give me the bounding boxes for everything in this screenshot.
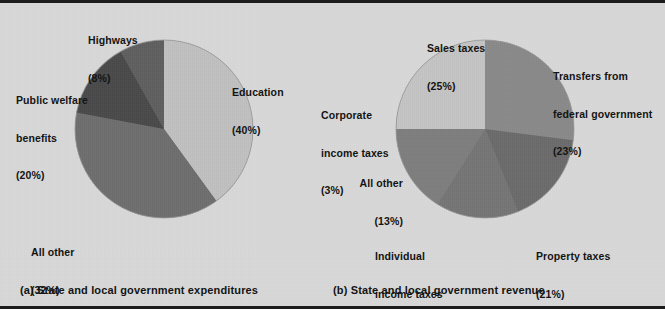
label-highways-percent: (8%) xyxy=(88,72,138,85)
label-all-other-revenue-name: All other xyxy=(325,177,403,190)
label-transfers-percent: (23%) xyxy=(553,145,652,158)
label-highways: Highways (8%) xyxy=(88,9,138,109)
label-education-name: Education xyxy=(232,86,284,99)
caption-panel-a: (a) State and local government expenditu… xyxy=(20,284,258,296)
panel-state-local-revenue: Sales taxes (25%) Transfers from federal… xyxy=(333,3,665,309)
label-public-welfare-percent: (20%) xyxy=(16,169,88,182)
label-individual-name-1: Individual xyxy=(375,250,443,263)
label-sales-taxes: Sales taxes (25%) xyxy=(427,17,485,117)
label-property-taxes: Property taxes (21%) xyxy=(536,225,610,309)
label-property-taxes-name: Property taxes xyxy=(536,250,610,263)
label-transfers-name-1: Transfers from xyxy=(553,70,652,83)
figure-container: Highways (8%) Education (40%) Public wel… xyxy=(0,0,665,309)
label-corporate-name-1: Corporate xyxy=(321,109,389,122)
label-sales-taxes-percent: (25%) xyxy=(427,80,485,93)
label-all-other-name: All other xyxy=(31,246,75,259)
label-transfers-federal-government: Transfers from federal government (23%) xyxy=(553,45,652,183)
label-highways-name: Highways xyxy=(88,34,138,47)
label-public-welfare-benefits: Public welfare benefits (20%) xyxy=(16,69,88,207)
caption-panel-b: (b) State and local government revenue xyxy=(333,284,545,296)
label-transfers-name-2: federal government xyxy=(553,108,652,121)
label-education-percent: (40%) xyxy=(232,124,284,137)
label-education: Education (40%) xyxy=(232,61,284,161)
label-public-welfare-name-1: Public welfare xyxy=(16,94,88,107)
label-property-taxes-percent: (21%) xyxy=(536,288,610,301)
label-sales-taxes-name: Sales taxes xyxy=(427,42,485,55)
label-individual-income-taxes: Individual income taxes (15%) xyxy=(375,225,443,309)
panel-state-local-expenditures: Highways (8%) Education (40%) Public wel… xyxy=(0,3,333,309)
label-public-welfare-name-2: benefits xyxy=(16,132,88,145)
